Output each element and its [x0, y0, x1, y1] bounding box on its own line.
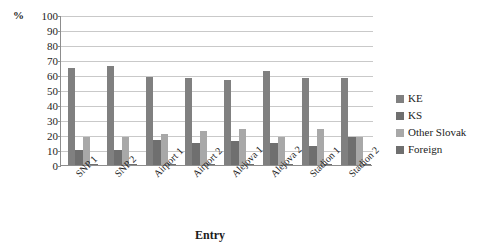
plot-area [60, 16, 372, 166]
y-axis-tickmark [57, 121, 61, 122]
bar-group [263, 15, 293, 165]
bar-group [68, 15, 98, 165]
y-axis-tickmark [57, 46, 61, 47]
y-axis-tickmark [57, 61, 61, 62]
y-axis-tickmark [57, 16, 61, 17]
bar-group [302, 15, 332, 165]
y-axis-tickmark [57, 31, 61, 32]
legend-swatch-icon [396, 112, 404, 120]
y-axis-tick-70: 70 [18, 56, 58, 67]
bar-group [341, 15, 371, 165]
y-axis-tickmark [57, 76, 61, 77]
bar-group [224, 15, 254, 165]
y-axis-tick-20: 20 [18, 131, 58, 142]
y-axis-tick-90: 90 [18, 26, 58, 37]
bar-group [107, 15, 137, 165]
legend-swatch-icon [396, 146, 404, 154]
y-axis-tickmark [57, 106, 61, 107]
chart-legend: KEKSOther SlovakForeign [396, 90, 491, 158]
legend-swatch-icon [396, 95, 404, 103]
bar-ke-snp-1 [68, 68, 76, 166]
legend-item-other-slovak[interactable]: Other Slovak [396, 124, 491, 141]
y-axis-tick-0: 0 [18, 161, 58, 172]
y-axis-tick-50: 50 [18, 86, 58, 97]
y-axis-tickmark [57, 166, 61, 167]
bar-ke-airport-1 [146, 77, 154, 166]
y-axis-tickmark [57, 136, 61, 137]
y-axis-tick-100: 100 [18, 11, 58, 22]
bar-group [146, 15, 176, 165]
y-axis-tickmark [57, 151, 61, 152]
bar-ks-stadion-2 [348, 137, 356, 166]
legend-item-ks[interactable]: KS [396, 107, 491, 124]
legend-label: KE [408, 93, 423, 104]
bar-chart: % 1009080706050403020100 SNP 1SNP 2Airpo… [0, 0, 491, 252]
legend-swatch-icon [396, 129, 404, 137]
bar-ke-airport-2 [185, 78, 193, 165]
y-axis-tick-30: 30 [18, 116, 58, 127]
bar-ke-snp-2 [107, 66, 115, 165]
bar-group [185, 15, 215, 165]
y-axis-tick-60: 60 [18, 71, 58, 82]
y-axis-tickmark [57, 91, 61, 92]
legend-label: Foreign [408, 144, 442, 155]
legend-item-ke[interactable]: KE [396, 90, 491, 107]
bar-ks-airport-1 [153, 140, 161, 166]
legend-item-foreign[interactable]: Foreign [396, 141, 491, 158]
legend-label: Other Slovak [408, 127, 466, 138]
x-axis-title: Entry [150, 228, 270, 243]
bar-ke-alejova-1 [224, 80, 232, 166]
legend-label: KS [408, 110, 422, 121]
y-axis-tick-80: 80 [18, 41, 58, 52]
y-axis-tick-labels: 1009080706050403020100 [16, 0, 58, 252]
y-axis-tick-10: 10 [18, 146, 58, 157]
y-axis-tick-40: 40 [18, 101, 58, 112]
